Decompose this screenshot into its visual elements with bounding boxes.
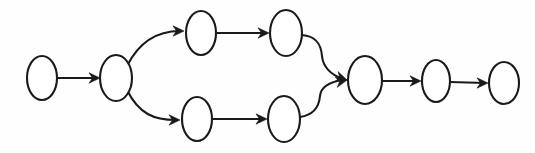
edge-line (127, 31, 180, 66)
node-shape[interactable] (268, 96, 300, 142)
edge-line (300, 80, 343, 117)
node-n5[interactable] (182, 97, 212, 141)
node-shape[interactable] (27, 56, 57, 100)
edge-n5-to-n6 (213, 114, 267, 124)
edge-line (302, 35, 343, 79)
node-shape[interactable] (348, 56, 382, 104)
edge-line (127, 90, 176, 120)
node-shape[interactable] (422, 60, 450, 102)
edge-n6-to-n7 (300, 75, 348, 117)
edge-n3-to-n4 (217, 28, 269, 38)
node-shape[interactable] (182, 97, 212, 141)
node-shape[interactable] (186, 11, 216, 55)
node-n1[interactable] (27, 56, 57, 100)
edge-n2-to-n5 (127, 90, 180, 125)
node-n9[interactable] (489, 62, 519, 104)
edge-n8-to-n9 (450, 78, 488, 88)
graph-svg (0, 0, 535, 153)
node-shape[interactable] (100, 55, 132, 101)
node-n3[interactable] (186, 11, 216, 55)
node-shape[interactable] (489, 62, 519, 104)
node-shape[interactable] (270, 10, 302, 56)
edge-n2-to-n3 (127, 26, 184, 66)
nodes-layer (27, 10, 519, 142)
node-n6[interactable] (268, 96, 300, 142)
edge-n7-to-n8 (382, 76, 421, 86)
diagram-canvas (0, 0, 535, 153)
edge-n4-to-n7 (302, 35, 349, 85)
node-n7[interactable] (348, 56, 382, 104)
node-n2[interactable] (100, 55, 132, 101)
node-n8[interactable] (422, 60, 450, 102)
edge-n1-to-n2 (58, 73, 100, 83)
node-n4[interactable] (270, 10, 302, 56)
